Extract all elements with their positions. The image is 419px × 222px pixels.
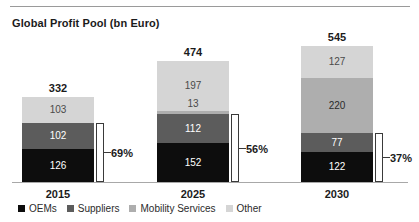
legend-label: Suppliers (78, 203, 120, 214)
bar-segment-value: 103 (50, 105, 67, 115)
legend-swatch-icon (67, 205, 74, 212)
bar-2030[interactable]: 127 220 77 122 (301, 46, 373, 182)
chart-legend: OEMs Suppliers Mobility Services Other (18, 203, 262, 214)
x-axis-line (12, 182, 408, 183)
legend-swatch-icon (226, 205, 233, 212)
bar-segment-oems-2015: 126 (22, 149, 94, 182)
bar-total-2030: 545 (301, 31, 373, 43)
bracket-tick-2030 (383, 157, 390, 158)
legend-swatch-icon (18, 205, 25, 212)
bracket-tick-2025 (239, 148, 246, 149)
bar-segment-value: 102 (50, 131, 67, 141)
bar-segment-value: 112 (185, 124, 201, 134)
x-tick-label-2025: 2025 (157, 188, 229, 200)
bar-total-2015: 332 (22, 82, 94, 94)
bar-segment-value: 13 (187, 99, 198, 109)
bar-total-2025: 474 (157, 46, 229, 58)
bar-segment-suppliers-2030: 77 (301, 133, 373, 152)
legend-item-mobility-services[interactable]: Mobility Services (129, 203, 215, 214)
bracket-2030 (375, 133, 383, 182)
bracket-percent-2015: 69% (111, 147, 133, 159)
bar-segment-value: 122 (329, 162, 346, 172)
legend-label: OEMs (29, 203, 57, 214)
legend-item-other[interactable]: Other (226, 203, 262, 214)
bar-2025[interactable]: 197 13 112 152 (157, 61, 229, 182)
bracket-percent-2025: 56% (246, 143, 268, 155)
legend-label: Other (237, 203, 262, 214)
bracket-tick-2015 (104, 152, 111, 153)
bar-2015[interactable]: 103 102 126 (22, 97, 94, 182)
bar-segment-suppliers-2015: 102 (22, 123, 94, 149)
x-tick-label-2015: 2015 (22, 188, 94, 200)
bar-segment-other-2015: 103 (22, 97, 94, 123)
bar-segment-value: 220 (329, 101, 346, 111)
bar-segment-value: 77 (331, 138, 342, 148)
chart-container: Global Profit Pool (bn Euro) 332 103 102… (0, 0, 419, 222)
legend-swatch-icon (129, 205, 136, 212)
legend-item-oems[interactable]: OEMs (18, 203, 57, 214)
bar-segment-oems-2030: 122 (301, 152, 373, 182)
x-tick-label-2030: 2030 (301, 188, 373, 200)
bar-segment-value: 126 (50, 161, 67, 171)
bracket-percent-2030: 37% (390, 152, 412, 164)
bar-segment-oems-2025: 152 (157, 143, 229, 182)
bar-segment-other-2030: 127 (301, 46, 373, 78)
bar-segment-value: 152 (185, 158, 202, 168)
legend-label: Mobility Services (140, 203, 215, 214)
bracket-2025 (231, 114, 239, 182)
bar-segment-value: 197 (185, 81, 202, 91)
legend-item-suppliers[interactable]: Suppliers (67, 203, 120, 214)
bar-segment-value: 127 (329, 57, 346, 67)
bar-segment-suppliers-2025: 112 (157, 114, 229, 143)
bracket-2015 (96, 123, 104, 182)
bar-segment-mobility-2030: 220 (301, 78, 373, 133)
